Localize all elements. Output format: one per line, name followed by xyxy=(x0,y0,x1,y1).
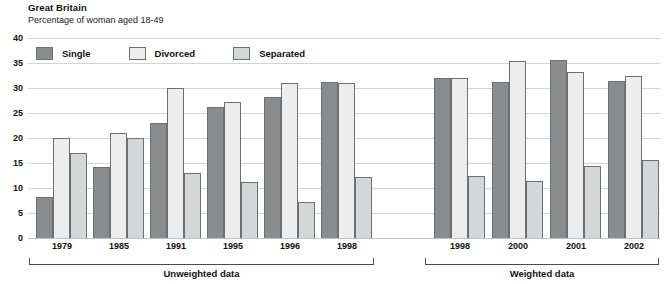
bar-divorced xyxy=(110,133,127,238)
y-axis-tick-label: 20 xyxy=(13,133,23,143)
panel-unweighted: 197919851991199519961998 xyxy=(28,38,375,238)
x-axis-labels: 1998200020012002 xyxy=(424,241,660,251)
bar-group xyxy=(550,38,602,238)
chart-plot-area: 0510152025303540 SingleDivorcedSeparated… xyxy=(28,38,660,238)
legend-item: Separated xyxy=(233,47,305,60)
bar-divorced xyxy=(625,76,642,238)
legend-item-label: Divorced xyxy=(155,48,196,59)
bar-separated xyxy=(184,173,201,239)
bar-separated xyxy=(526,181,543,239)
y-axis-tick-label: 5 xyxy=(18,208,23,218)
bar-groups xyxy=(28,38,375,238)
x-axis-label: 2000 xyxy=(492,241,544,251)
legend-item: Single xyxy=(36,47,91,60)
x-axis-label: 1998 xyxy=(434,241,486,251)
panel-weighted: 1998200020012002 xyxy=(424,38,660,238)
bar-single xyxy=(492,82,509,238)
bar-divorced xyxy=(224,102,241,238)
bar-divorced xyxy=(567,72,584,238)
bar-group xyxy=(608,38,660,238)
x-axis-label: 1991 xyxy=(150,241,202,251)
bar-separated xyxy=(642,160,659,238)
panel-caption-unweighted: Unweighted data xyxy=(29,268,374,279)
legend-item: Divorced xyxy=(129,47,196,60)
bar-divorced xyxy=(338,83,355,239)
legend-item-label: Single xyxy=(62,48,91,59)
y-axis-tick-label: 10 xyxy=(13,183,23,193)
bar-single xyxy=(608,81,625,239)
bar-separated xyxy=(468,176,485,238)
x-axis-label: 1996 xyxy=(264,241,316,251)
x-axis-label: 1995 xyxy=(207,241,259,251)
bar-separated xyxy=(298,202,315,239)
bar-group xyxy=(36,38,88,238)
y-axis-tick-label: 30 xyxy=(13,83,23,93)
chart-legend: SingleDivorcedSeparated xyxy=(36,47,305,60)
y-axis-tick-label: 35 xyxy=(13,58,23,68)
y-axis-tick-label: 0 xyxy=(18,233,23,243)
bar-divorced xyxy=(451,78,468,239)
chart-header: Great Britain Percentage of woman aged 1… xyxy=(28,2,164,27)
legend-swatch-icon xyxy=(233,47,250,60)
chart-subtitle: Percentage of woman aged 18-49 xyxy=(28,14,164,27)
panel-bracket-unweighted xyxy=(29,258,374,265)
bar-separated xyxy=(127,138,144,238)
bar-group xyxy=(264,38,316,238)
bar-group xyxy=(150,38,202,238)
bar-group xyxy=(434,38,486,238)
bar-single xyxy=(207,107,224,238)
chart-title: Great Britain xyxy=(28,2,164,14)
bar-single xyxy=(264,97,281,238)
legend-swatch-icon xyxy=(129,47,146,60)
x-axis-label: 1979 xyxy=(36,241,88,251)
y-axis-tick-label: 25 xyxy=(13,108,23,118)
x-axis-labels: 197919851991199519961998 xyxy=(28,241,375,251)
bar-single xyxy=(93,167,110,238)
bar-single xyxy=(36,197,53,238)
bar-separated xyxy=(241,182,258,239)
gridline xyxy=(28,238,660,239)
bar-divorced xyxy=(509,61,526,238)
bar-single xyxy=(150,123,167,238)
bar-divorced xyxy=(281,83,298,238)
bar-separated xyxy=(584,166,601,239)
legend-swatch-icon xyxy=(36,47,53,60)
x-axis-label: 2001 xyxy=(550,241,602,251)
bar-separated xyxy=(70,153,87,239)
bar-divorced xyxy=(53,138,70,238)
bar-group xyxy=(93,38,145,238)
x-axis-label: 1998 xyxy=(321,241,373,251)
bar-single xyxy=(550,60,567,238)
panel-bracket-weighted xyxy=(425,258,659,265)
y-axis-tick-label: 40 xyxy=(13,33,23,43)
x-axis-label: 1985 xyxy=(93,241,145,251)
x-axis-label: 2002 xyxy=(608,241,660,251)
bar-single xyxy=(434,78,451,239)
bar-groups xyxy=(424,38,660,238)
bar-divorced xyxy=(167,88,184,239)
bar-group xyxy=(321,38,373,238)
bar-single xyxy=(321,82,338,238)
bar-group xyxy=(207,38,259,238)
bar-separated xyxy=(355,177,372,238)
legend-item-label: Separated xyxy=(259,48,305,59)
y-axis-tick-label: 15 xyxy=(13,158,23,168)
bar-group xyxy=(492,38,544,238)
panel-caption-weighted: Weighted data xyxy=(425,268,659,279)
